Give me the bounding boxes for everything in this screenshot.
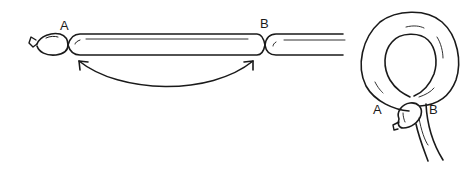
label-a-left: A [60, 19, 69, 32]
label-a-right: A [373, 103, 382, 116]
label-b-left: B [260, 17, 269, 30]
label-b-right: B [429, 103, 438, 116]
straight-balloon [29, 33, 345, 55]
balloon-drawing [0, 0, 470, 169]
balloon-diagram: A B A B [0, 0, 470, 169]
double-arrow-icon [79, 61, 253, 87]
balloon-loop [361, 12, 458, 161]
